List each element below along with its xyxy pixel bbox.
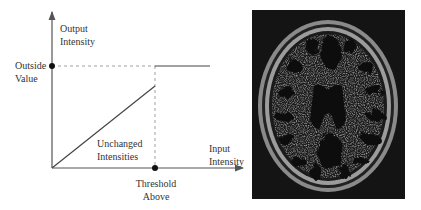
outside-value-label: Outside Value (15, 59, 46, 85)
region-label: Unchanged Intensities (97, 137, 143, 163)
thresholded-brain-slice (252, 10, 405, 199)
threshold-above-diagram: Output Intensity Outside Value Unchanged… (0, 0, 250, 210)
outside-value-dot (49, 63, 55, 69)
threshold-dot (152, 165, 158, 171)
x-axis-label: Input Intensity (209, 142, 244, 168)
threshold-label: Threshold Above (133, 177, 179, 203)
y-axis-label: Output Intensity (60, 22, 95, 48)
transfer-function-plot (0, 0, 250, 210)
brain-mri-image (252, 10, 405, 199)
